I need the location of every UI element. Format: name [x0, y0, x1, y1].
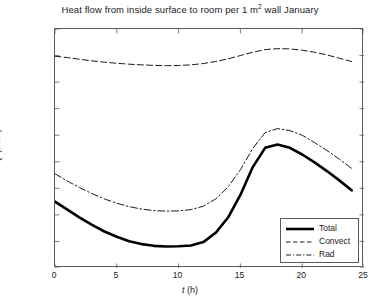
x-tick-label: 15: [235, 270, 244, 280]
series-line-convect: [55, 49, 352, 66]
x-tick-label: 20: [296, 270, 305, 280]
legend-line-sample-convect: [285, 238, 315, 246]
legend-label-total: Total: [319, 224, 337, 233]
x-tick-label: 10: [173, 270, 182, 280]
x-tick-label: 0: [52, 270, 57, 280]
x-axis-label-unit: (h): [185, 285, 199, 295]
x-axis-label: t (h): [0, 285, 380, 295]
x-tick-label: 25: [358, 270, 367, 280]
y-axis-label-unit-open: (J/m: [0, 136, 2, 156]
chart-figure: Heat flow from inside surface to room pe…: [0, 0, 380, 307]
chart-legend: Total Convect Rad: [280, 218, 359, 263]
y-axis-label-symbol: Q: [0, 156, 2, 163]
legend-item-total: Total: [281, 222, 358, 235]
y-axis-label: Q (J/m2): [0, 129, 2, 163]
series-line-rad: [55, 129, 352, 212]
y-axis-label-unit-close: ): [0, 129, 2, 132]
legend-item-convect: Convect: [281, 235, 358, 248]
legend-label-rad: Rad: [319, 250, 335, 259]
legend-line-sample-total: [285, 225, 315, 233]
x-tick-label: 5: [113, 270, 118, 280]
chart-title-text-after: wall January: [262, 4, 319, 15]
legend-line-sample-rad: [285, 251, 315, 259]
chart-title-text-before: Heat flow from inside surface to room pe…: [61, 4, 258, 15]
chart-title: Heat flow from inside surface to room pe…: [0, 3, 380, 15]
legend-label-convect: Convect: [319, 237, 350, 246]
legend-item-rad: Rad: [281, 248, 358, 261]
